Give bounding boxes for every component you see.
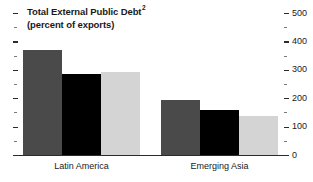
bar-latin-america-series-1 [23, 50, 62, 155]
bar-emerging-asia-series-3 [239, 116, 278, 155]
axis-tick-left-450 [14, 27, 17, 28]
axis-tick-left-300 [13, 70, 18, 71]
x-axis-baseline [13, 155, 289, 156]
category-label-latin-america: Latin America [23, 161, 140, 171]
y-axis-label-200: 200 [292, 94, 307, 103]
y-axis-label-500: 500 [292, 9, 307, 18]
y-axis-label-300: 300 [292, 65, 307, 74]
axis-tick-left-400 [13, 41, 18, 42]
chart-container: Total External Public Debt2 (percent of … [0, 0, 313, 182]
bar-latin-america-series-2 [62, 74, 101, 155]
y-axis-label-100: 100 [292, 122, 307, 131]
axis-tick-right-100 [284, 127, 289, 128]
axis-tick-left-200 [13, 98, 18, 99]
axis-tick-right-450 [284, 27, 287, 28]
y-axis-label-400: 400 [292, 37, 307, 46]
axis-tick-left-150 [14, 112, 17, 113]
axis-tick-right-200 [284, 98, 289, 99]
axis-tick-left-500 [13, 13, 18, 14]
axis-tick-right-500 [284, 13, 289, 14]
bars-layer [0, 0, 313, 155]
axis-tick-right-300 [284, 70, 289, 71]
axis-tick-right-50 [284, 141, 287, 142]
axis-tick-right-250 [284, 84, 287, 85]
bar-emerging-asia-series-1 [161, 100, 200, 155]
axis-tick-left-350 [14, 56, 17, 57]
axis-tick-right-150 [284, 112, 287, 113]
axis-tick-left-50 [14, 141, 17, 142]
axis-tick-left-100 [13, 127, 18, 128]
axis-tick-right-350 [284, 56, 287, 57]
bar-latin-america-series-3 [101, 72, 140, 155]
bar-emerging-asia-series-2 [200, 110, 239, 155]
axis-tick-left-250 [14, 84, 17, 85]
y-axis-label-0: 0 [292, 151, 297, 160]
axis-tick-right-400 [284, 41, 289, 42]
category-label-emerging-asia: Emerging Asia [161, 161, 278, 171]
